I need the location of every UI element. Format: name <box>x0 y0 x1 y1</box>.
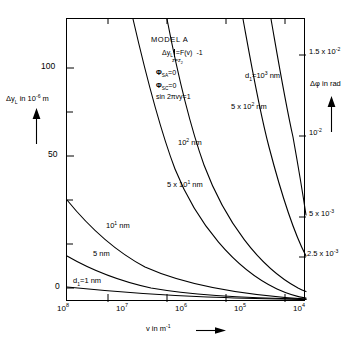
curve-10e2nm <box>167 19 306 292</box>
curve-label-5x10e1nm: 5 x 101 nm <box>167 181 203 189</box>
model-phi-sa: ΦSA=0 <box>156 69 176 76</box>
c6-a: 5 x 10 <box>231 102 251 111</box>
curve-label-d1-10e3nm: d1=103 nm <box>245 72 280 80</box>
y2tick-label-2: 10-2 <box>309 129 322 137</box>
curve-label-10e1nm: 101 nm <box>106 222 130 230</box>
xtick-label-5: 104 <box>293 305 305 313</box>
x-axis-exp: -1 <box>166 323 171 329</box>
y2tick-label-1: 1.5 x 10-2 <box>309 48 340 56</box>
xtick-label-3: 106 <box>175 305 187 313</box>
condition-text: z=z <box>172 57 181 63</box>
curve-label-5x10e2nm: 5 x 102 nm <box>231 103 267 111</box>
model-phi-sc: ΦSC=0 <box>156 82 176 89</box>
r3-exp: -3 <box>329 208 334 214</box>
b1-exp: 8 <box>66 302 69 308</box>
y2-axis-symbol: Δφ <box>310 79 320 88</box>
c3-b: nm <box>117 221 130 230</box>
y2-axis-label: Δφ in rad <box>310 80 341 88</box>
y2-axis-direction-arrow <box>327 96 336 132</box>
b5-mant: 10 <box>293 304 302 313</box>
y2-axis-rest: in rad <box>320 79 341 88</box>
equation-lhs: Δy <box>162 49 170 56</box>
condition-sub: 2 <box>181 61 183 65</box>
r1-mant: 1.5 x 10 <box>309 47 336 56</box>
model-sin-condition: sin 2πvy=1 <box>156 93 191 100</box>
b3-mant: 10 <box>175 304 184 313</box>
b2-mant: 10 <box>116 304 125 313</box>
r4-exp: -3 <box>334 248 339 254</box>
curves-svg <box>67 19 306 302</box>
x-axis-mid: in m <box>150 324 166 333</box>
y-axis-symbol: Δy <box>6 94 15 103</box>
equation-bar <box>174 49 175 57</box>
b1-mant: 10 <box>57 304 66 313</box>
c4-a: 5 x 10 <box>167 180 187 189</box>
ytick-label-50: 50 <box>48 150 57 159</box>
ytick-label-0: 0 <box>55 282 60 291</box>
b2-exp: 7 <box>125 302 128 308</box>
x-axis-direction-arrow <box>196 327 226 334</box>
curve-label-10e2nm: 102 nm <box>178 139 202 147</box>
b5-exp: 4 <box>302 302 305 308</box>
model-equation-condition: z=z2 <box>172 58 183 64</box>
c1-b: =1 nm <box>80 276 101 285</box>
curve-label-d1-1nm: d1=1 nm <box>73 277 101 285</box>
curve-5x10e2nm <box>243 19 306 256</box>
y-axis-mid: in 10 <box>18 94 36 103</box>
y-axis-unit: m <box>41 94 49 103</box>
xtick-label-1: 108 <box>57 305 69 313</box>
y2tick-label-4: 2.5 x 10-3 <box>307 250 338 258</box>
c5-b: nm <box>189 138 202 147</box>
xtick-label-2: 107 <box>116 305 128 313</box>
x-axis-label: v in m-1 <box>146 325 171 333</box>
c7-mid: =10 <box>252 71 265 80</box>
r3-mant: 5 x 10 <box>309 209 329 218</box>
model-equation: ΔyL=F(v)-1 <box>162 49 203 57</box>
r4-mant: 2.5 x 10 <box>307 249 334 258</box>
y2tick-label-3: 5 x 10-3 <box>309 210 334 218</box>
curve-label-5nm: 5 nm <box>93 250 110 258</box>
b4-mant: 10 <box>234 304 243 313</box>
plot-frame: MODEL A ΔyL=F(v)-1 z=z2 ΦSA=0 ΦSC=0 sin … <box>66 18 305 301</box>
b4-exp: 5 <box>243 302 246 308</box>
c6-b: nm <box>254 102 267 111</box>
r1-exp: -2 <box>336 46 341 52</box>
phi-sa-value: =0 <box>168 69 176 76</box>
phi-sc-value: =0 <box>168 82 176 89</box>
b3-exp: 6 <box>184 302 187 308</box>
equation-rhs: =F(v) <box>176 49 193 56</box>
model-title: MODEL A <box>151 36 188 44</box>
c4-b: nm <box>190 180 203 189</box>
y-axis-direction-arrow <box>32 108 41 144</box>
figure-root: MODEL A ΔyL=F(v)-1 z=z2 ΦSA=0 ΦSC=0 sin … <box>0 0 351 344</box>
equation-tail: -1 <box>196 49 202 56</box>
xtick-label-4: 105 <box>234 305 246 313</box>
curve-5nm <box>67 256 306 299</box>
ytick-label-100: 100 <box>41 62 55 71</box>
curve-d1-10e3nm <box>271 19 306 215</box>
c7-b: nm <box>268 71 281 80</box>
y-axis-label: ΔyL in 10-6 m <box>6 95 49 103</box>
r2-exp: -2 <box>317 127 322 133</box>
curve-5x10e1nm <box>133 19 306 298</box>
